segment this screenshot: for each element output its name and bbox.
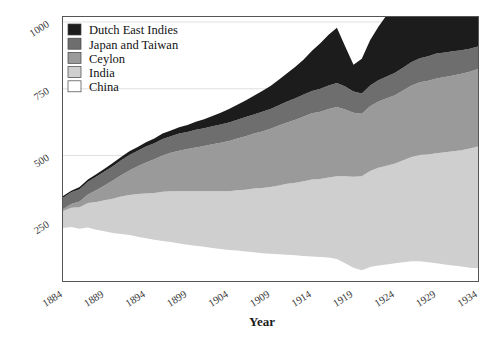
x-tick-label-1904: 1904 (206, 288, 230, 309)
chart-canvas: 2505007501000 18841889189418991904190919… (0, 0, 500, 341)
y-axis-tick-labels: 2505007501000 (27, 18, 51, 236)
x-tick-label-1924: 1924 (372, 288, 396, 309)
x-axis-tick-labels: 1884188918941899190419091914191919241929… (40, 288, 479, 309)
legend-label-ceylon: Ceylon (89, 52, 126, 66)
legend-label-japan-and-taiwan: Japan and Taiwan (89, 38, 179, 52)
legend-label-india: India (89, 66, 115, 80)
stacked-area-chart-figure: 2505007501000 18841889189418991904190919… (0, 0, 500, 341)
y-tick-label-750: 750 (32, 85, 51, 103)
legend-swatch-dutch-east-indies (68, 24, 81, 35)
y-tick-label-1000: 1000 (27, 18, 51, 38)
x-tick-label-1919: 1919 (331, 288, 355, 308)
legend-label-dutch-east-indies: Dutch East Indies (89, 23, 178, 37)
x-tick-label-1934: 1934 (455, 288, 479, 309)
x-axis-title: Year (249, 314, 275, 329)
legend-label-china: China (89, 80, 119, 94)
y-tick-label-500: 500 (32, 152, 51, 170)
x-tick-label-1899: 1899 (165, 288, 189, 308)
x-tick-label-1914: 1914 (289, 288, 313, 309)
legend-swatch-ceylon (68, 52, 81, 63)
x-tick-label-1884: 1884 (40, 288, 64, 309)
x-tick-label-1894: 1894 (123, 288, 147, 309)
x-tick-label-1889: 1889 (82, 288, 106, 308)
x-tick-label-1909: 1909 (248, 288, 272, 308)
legend-swatch-japan-and-taiwan (68, 38, 81, 49)
x-tick-label-1929: 1929 (414, 288, 438, 308)
legend: Dutch East IndiesJapan and TaiwanCeylonI… (68, 23, 179, 94)
legend-swatch-india (68, 67, 81, 78)
legend-swatch-china (68, 81, 81, 92)
y-tick-label-250: 250 (32, 219, 51, 237)
